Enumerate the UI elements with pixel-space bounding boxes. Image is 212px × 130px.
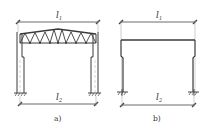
structural-frame-figure: l1 — [0, 0, 212, 130]
panel-b-left-column — [121, 40, 123, 92]
panel-a-top-dimension — [16, 20, 100, 32]
panel-a-truss-frame: l1 — [14, 10, 101, 123]
panel-b-top-dimension — [119, 20, 197, 40]
panel-a-left-fixed-support — [14, 93, 27, 96]
panel-a-caption: a) — [54, 114, 61, 123]
panel-a-right-column — [91, 32, 98, 93]
panel-b-bottom-dimension-label: l2 — [156, 92, 162, 103]
panel-a-bottom-dimension-label: l2 — [56, 92, 62, 103]
panel-b-beam-frame: l1 — [117, 10, 199, 123]
panel-a-roof-truss — [20, 29, 96, 44]
panel-b-caption: b) — [153, 114, 161, 123]
panel-b-top-dimension-label: l1 — [156, 10, 162, 21]
panel-a-right-fixed-support — [88, 93, 101, 96]
panel-a-top-dimension-label: l1 — [56, 10, 62, 21]
panel-b-right-column — [193, 40, 195, 92]
